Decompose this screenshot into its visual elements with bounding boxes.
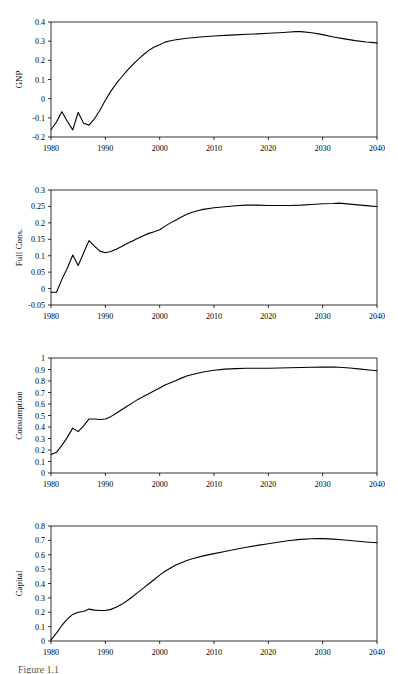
x-axis-tick-label: 2040 bbox=[369, 144, 385, 153]
x-axis-tick-label: 2020 bbox=[260, 480, 276, 489]
chart-svg: -0.2-0.100.10.20.30.41980199020002010202… bbox=[0, 0, 398, 168]
y-axis-title: GNP bbox=[14, 70, 24, 88]
y-axis-tick-label: 0 bbox=[41, 637, 45, 646]
y-axis-tick-label: 1 bbox=[41, 354, 45, 363]
data-series-line bbox=[51, 367, 377, 455]
y-axis-tick-label: 0.8 bbox=[35, 522, 45, 531]
y-axis-tick-label: 0.1 bbox=[35, 458, 45, 467]
data-series-line bbox=[51, 203, 377, 292]
y-axis-tick-label: 0 bbox=[41, 95, 45, 104]
y-axis-tick-label: 0.3 bbox=[35, 186, 45, 195]
y-axis-title: Capital bbox=[14, 570, 24, 596]
x-axis-tick-label: 2000 bbox=[152, 480, 168, 489]
chart-panel-capital: 00.10.20.30.40.50.60.70.8198019902000201… bbox=[0, 504, 398, 672]
plot-frame bbox=[51, 22, 377, 137]
x-axis-tick-label: 2000 bbox=[152, 312, 168, 321]
x-axis-tick-label: 2020 bbox=[260, 144, 276, 153]
y-axis-tick-label: 0 bbox=[41, 469, 45, 478]
x-axis-tick-label: 2030 bbox=[315, 144, 331, 153]
x-axis-tick-label: 2000 bbox=[152, 144, 168, 153]
x-axis-tick-label: 2010 bbox=[206, 312, 222, 321]
x-axis-tick-label: 2040 bbox=[369, 648, 385, 657]
y-axis-tick-label: 0.3 bbox=[35, 594, 45, 603]
y-axis-title: Consumption bbox=[14, 391, 24, 440]
y-axis-tick-label: 0.4 bbox=[35, 580, 45, 589]
y-axis-tick-label: 0.15 bbox=[31, 235, 45, 244]
chart-svg: -0.0500.050.10.150.20.250.31980199020002… bbox=[0, 168, 398, 336]
x-axis-tick-label: 2010 bbox=[206, 648, 222, 657]
x-axis-tick-label: 1990 bbox=[97, 312, 113, 321]
x-axis-tick-label: 1980 bbox=[43, 144, 59, 153]
y-axis-tick-label: 0.4 bbox=[35, 423, 45, 432]
y-axis-tick-label: 0 bbox=[41, 285, 45, 294]
x-axis-tick-label: 1980 bbox=[43, 480, 59, 489]
x-axis-tick-label: 2030 bbox=[315, 480, 331, 489]
x-axis-tick-label: 2010 bbox=[206, 144, 222, 153]
y-axis-tick-label: -0.05 bbox=[28, 301, 45, 310]
x-axis-tick-label: 1990 bbox=[97, 480, 113, 489]
x-axis-tick-label: 1990 bbox=[97, 144, 113, 153]
chart-panel-consumption: 00.10.20.30.40.50.60.70.80.9119801990200… bbox=[0, 336, 398, 504]
chart-panel-gnp: -0.2-0.100.10.20.30.41980199020002010202… bbox=[0, 0, 398, 168]
x-axis-tick-label: 1990 bbox=[97, 648, 113, 657]
y-axis-tick-label: 0.7 bbox=[35, 536, 45, 545]
y-axis-tick-label: 0.8 bbox=[35, 377, 45, 386]
y-axis-tick-label: 0.2 bbox=[35, 446, 45, 455]
y-axis-tick-label: 0.1 bbox=[35, 76, 45, 85]
y-axis-tick-label: 0.5 bbox=[35, 565, 45, 574]
y-axis-tick-label: -0.2 bbox=[32, 133, 45, 142]
y-axis-tick-label: 0.4 bbox=[35, 18, 45, 27]
chart-panel-full-cons: -0.0500.050.10.150.20.250.31980199020002… bbox=[0, 168, 398, 336]
y-axis-tick-label: 0.2 bbox=[35, 608, 45, 617]
x-axis-tick-label: 2020 bbox=[260, 648, 276, 657]
chart-svg: 00.10.20.30.40.50.60.70.80.9119801990200… bbox=[0, 336, 398, 504]
y-axis-tick-label: 0.5 bbox=[35, 412, 45, 421]
x-axis-tick-label: 2030 bbox=[315, 648, 331, 657]
y-axis-tick-label: 0.9 bbox=[35, 366, 45, 375]
y-axis-tick-label: 0.1 bbox=[35, 623, 45, 632]
y-axis-tick-label: 0.3 bbox=[35, 435, 45, 444]
y-axis-tick-label: 0.3 bbox=[35, 37, 45, 46]
x-axis-tick-label: 2020 bbox=[260, 312, 276, 321]
x-axis-tick-label: 2000 bbox=[152, 648, 168, 657]
plot-frame bbox=[51, 358, 377, 473]
figure-caption: Figure 1.1 bbox=[18, 664, 59, 674]
y-axis-tick-label: 0.25 bbox=[31, 202, 45, 211]
data-series-line bbox=[51, 32, 377, 130]
y-axis-tick-label: 0.7 bbox=[35, 389, 45, 398]
plot-frame bbox=[51, 526, 377, 641]
x-axis-tick-label: 2010 bbox=[206, 480, 222, 489]
y-axis-tick-label: -0.1 bbox=[32, 114, 45, 123]
x-axis-tick-label: 1980 bbox=[43, 648, 59, 657]
y-axis-tick-label: 0.2 bbox=[35, 219, 45, 228]
data-series-line bbox=[51, 539, 377, 640]
y-axis-tick-label: 0.1 bbox=[35, 252, 45, 261]
y-axis-title: Full Cons. bbox=[14, 229, 24, 267]
y-axis-tick-label: 0.05 bbox=[31, 268, 45, 277]
x-axis-tick-label: 2040 bbox=[369, 312, 385, 321]
x-axis-tick-label: 1980 bbox=[43, 312, 59, 321]
y-axis-tick-label: 0.6 bbox=[35, 551, 45, 560]
x-axis-tick-label: 2040 bbox=[369, 480, 385, 489]
x-axis-tick-label: 2030 bbox=[315, 312, 331, 321]
chart-svg: 00.10.20.30.40.50.60.70.8198019902000201… bbox=[0, 504, 398, 672]
y-axis-tick-label: 0.2 bbox=[35, 56, 45, 65]
y-axis-tick-label: 0.6 bbox=[35, 400, 45, 409]
